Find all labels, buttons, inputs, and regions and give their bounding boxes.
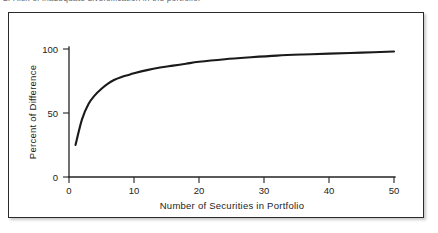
y-axis-ticks [63,49,69,177]
y-axis-title: Percent of Difference [27,65,38,159]
figure-caption-strip: 2. Risk of inadequate diversification in… [0,0,438,7]
x-axis-ticks [69,177,394,183]
x-tick-label-10: 10 [129,185,140,196]
y-tick-label-0: 0 [53,172,58,183]
x-tick-label-40: 40 [324,185,335,196]
y-tick-label-50: 50 [47,108,58,119]
x-tick-label-30: 30 [259,185,270,196]
diversification-curve-figure: 100 50 0 0 10 20 30 40 50 Number of Secu… [8,12,424,218]
y-tick-label-100: 100 [42,44,58,55]
diversification-curve [76,52,395,145]
x-axis-title: Number of Securities in Portfolio [160,200,304,211]
x-tick-label-50: 50 [389,185,400,196]
x-tick-label-20: 20 [194,185,205,196]
x-tick-label-0: 0 [66,185,71,196]
chart-canvas: 100 50 0 0 10 20 30 40 50 Number of Secu… [9,13,423,217]
figure-caption-text: 2. Risk of inadequate diversification in… [3,0,200,4]
